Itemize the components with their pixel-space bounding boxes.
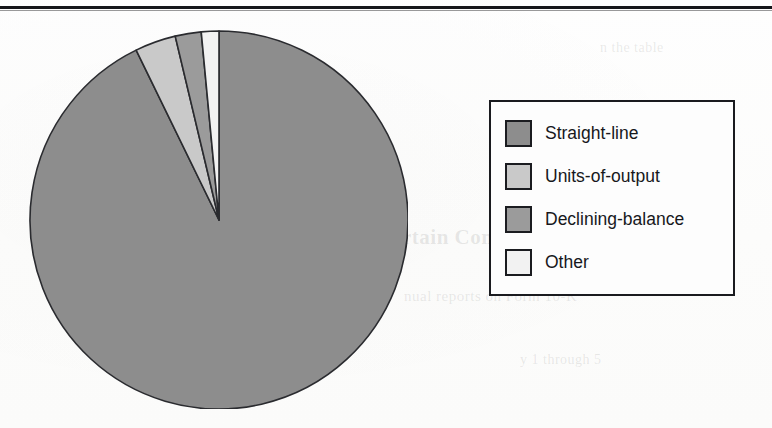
pie-chart xyxy=(29,30,408,409)
legend-swatch-other xyxy=(505,249,532,276)
legend-swatch-straight-line xyxy=(505,120,532,147)
pie-chart-svg xyxy=(29,30,408,409)
legend-swatch-units-of-output xyxy=(505,163,532,190)
legend-item-units-of-output[interactable]: Units-of-output xyxy=(505,155,725,198)
legend-label-other: Other xyxy=(545,254,589,272)
legend-item-straight-line[interactable]: Straight-line xyxy=(505,112,725,155)
page-top-rule-hairline xyxy=(0,10,772,11)
legend-label-straight-line: Straight-line xyxy=(545,125,638,143)
legend-item-list: Straight-line Units-of-output Declining-… xyxy=(505,112,725,286)
chart-legend: Straight-line Units-of-output Declining-… xyxy=(489,100,735,296)
legend-label-units-of-output: Units-of-output xyxy=(545,168,660,186)
page-top-rule xyxy=(0,6,772,9)
legend-item-declining-balance[interactable]: Declining-balance xyxy=(505,198,725,241)
legend-label-declining-balance: Declining-balance xyxy=(545,211,684,229)
pie-slice-group xyxy=(30,31,408,409)
legend-swatch-declining-balance xyxy=(505,206,532,233)
legend-item-other[interactable]: Other xyxy=(505,241,725,284)
